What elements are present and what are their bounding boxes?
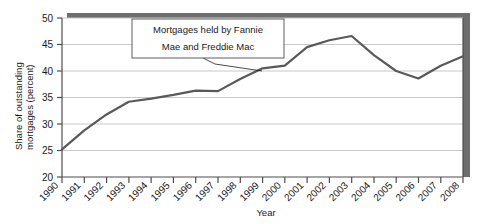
x-tick-label-1990: 1990 [37, 179, 61, 203]
x-tick-label-1995: 1995 [148, 179, 172, 203]
x-tick-label-2007: 2007 [416, 179, 440, 203]
x-tick-label-1992: 1992 [82, 179, 106, 203]
line-chart: 50 45 40 35 30 25 20 Share of outstandin… [0, 0, 488, 224]
x-tick-marks [62, 177, 463, 183]
annotation-line-2: Mae and Freddie Mac [162, 41, 255, 52]
y-tick-label-50: 50 [42, 13, 54, 24]
x-axis-title: Year [256, 207, 275, 218]
x-tick-label-2008: 2008 [438, 179, 462, 203]
x-tick-labels: 1990 1991 1992 1993 1994 1995 1996 1997 … [37, 179, 462, 203]
y-tick-label-25: 25 [42, 145, 54, 156]
y-tick-label-35: 35 [42, 92, 54, 103]
x-tick-label-2000: 2000 [260, 179, 284, 203]
x-tick-label-2002: 2002 [304, 179, 328, 203]
x-tick-label-1993: 1993 [104, 179, 128, 203]
x-tick-label-2005: 2005 [371, 179, 395, 203]
y-tick-marks [57, 18, 62, 177]
y-axis-title-line2: mortgages (percent) [24, 64, 35, 150]
x-tick-label-2006: 2006 [393, 179, 417, 203]
x-tick-label-2003: 2003 [327, 179, 351, 203]
y-axis-title-line1: Share of outstanding [13, 62, 24, 150]
annotation-callout: Mortgages held by Fannie Mae and Freddie… [132, 19, 284, 58]
y-tick-label-40: 40 [42, 66, 54, 77]
x-tick-label-1998: 1998 [215, 179, 239, 203]
x-tick-label-1994: 1994 [126, 179, 150, 203]
x-tick-label-2004: 2004 [349, 179, 373, 203]
x-tick-label-1991: 1991 [59, 179, 83, 203]
y-tick-label-45: 45 [42, 39, 54, 50]
x-tick-label-2001: 2001 [282, 179, 306, 203]
x-tick-label-1997: 1997 [193, 179, 217, 203]
x-tick-label-1999: 1999 [238, 179, 262, 203]
chart-figure: 50 45 40 35 30 25 20 Share of outstandin… [0, 0, 488, 224]
x-tick-label-1996: 1996 [171, 179, 195, 203]
plot-right-shadow [463, 13, 470, 177]
annotation-line-1: Mortgages held by Fannie [153, 24, 263, 35]
y-tick-label-30: 30 [42, 119, 54, 130]
